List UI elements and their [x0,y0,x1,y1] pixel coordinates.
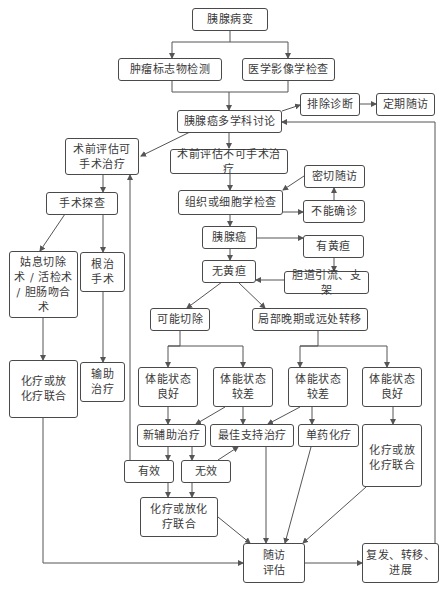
node-histology-cytology: 组织或细胞学检查 [178,190,283,215]
node-regular-followup: 定期随访 [376,93,435,116]
node-chemo-mid: 化疗或放化 疗联合 [140,497,218,537]
node-with-jaundice: 有黄疸 [303,235,364,258]
node-followup-eval: 随访 评估 [243,543,305,583]
node-no-jaundice: 无黄疸 [202,260,256,283]
node-chemo-right: 化疗或放 化疗联合 [362,424,422,487]
node-resectable: 术前评估可 手术治疗 [65,138,139,175]
node-surgical-exploration: 手术探查 [46,192,118,215]
node-chemo-left: 化疗或放 化疗联合 [9,360,78,418]
node-adjuvant-therapy: 输助 治疗 [80,362,125,402]
node-tumor-markers: 肿瘤标志物检测 [118,58,222,81]
node-ineffective: 无效 [181,460,231,483]
node-mdt-discussion: 胰腺癌多学科讨论 [177,110,282,133]
node-possibly-resectable: 可能切除 [150,308,210,331]
node-locally-advanced-metastatic: 局部晚期或远处转移 [252,308,368,331]
node-close-followup: 密切随访 [304,165,365,188]
node-neoadjuvant: 新辅助治疗 [137,424,206,447]
node-ps-good-2: 体能状态 良好 [362,367,422,407]
node-single-agent-chemo: 单药化疗 [298,424,359,447]
node-medical-imaging: 医学影像学检查 [242,58,335,81]
node-ps-poor-1: 体能状态 较差 [213,367,273,407]
node-undiagnosed: 不能确诊 [303,200,365,223]
node-palliative-surgery: 姑息切除 术 / 活检术 / 胆肠吻合 术 [9,251,78,318]
node-radical-surgery: 根治 手术 [80,252,125,292]
node-biliary-drainage: 胆道引流、支架 [284,271,369,294]
node-effective: 有效 [124,460,174,483]
node-pancreatic-cancer: 胰腺癌 [202,226,257,249]
node-best-supportive: 最佳支持治疗 [210,424,294,447]
node-unresectable: 术前评估不可手术治疗 [170,149,288,174]
flowchart-canvas: 胰腺病变 肿瘤标志物检测 医学影像学检查 胰腺癌多学科讨论 排除诊断 定期随访 … [0,0,443,595]
node-recurrence: 复发、转移、 进展 [362,543,439,583]
node-excluded-diagnosis: 排除诊断 [300,93,360,116]
node-ps-poor-2: 体能状态 较差 [288,367,348,407]
node-ps-good-1: 体能状态 良好 [138,367,198,407]
node-pancreatic-lesion: 胰腺病变 [192,8,268,31]
